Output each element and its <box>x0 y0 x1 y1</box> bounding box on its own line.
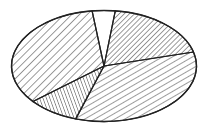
pie-chart <box>0 0 207 128</box>
